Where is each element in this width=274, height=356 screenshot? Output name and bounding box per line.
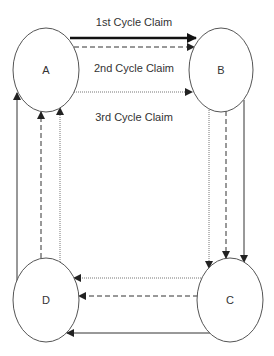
node-a-label: A [42,64,50,76]
node-b: B [189,28,253,112]
cycle3-label: 3rd Cycle Claim [95,111,173,123]
cycle2-label: 2nd Cycle Claim [94,62,174,74]
node-d: D [13,258,79,342]
cycle1-label: 1st Cycle Claim [96,16,172,28]
node-d-label: D [42,294,50,306]
cycle-claim-diagram: A B C D 1st Cycle Claim 2nd Cycle Claim … [0,0,274,356]
node-c-label: C [226,294,234,306]
node-a: A [13,28,79,112]
node-b-label: B [217,64,224,76]
node-c: C [197,258,263,342]
